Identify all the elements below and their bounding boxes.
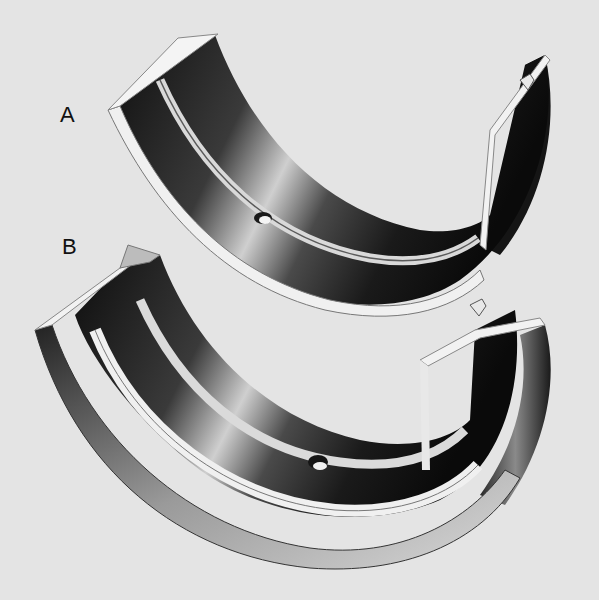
label-b: B: [62, 236, 77, 258]
bearings-drawing: [0, 0, 599, 600]
label-a: A: [60, 104, 75, 126]
bearing-a: [108, 34, 551, 316]
bearing-illustration: A B: [0, 0, 599, 600]
